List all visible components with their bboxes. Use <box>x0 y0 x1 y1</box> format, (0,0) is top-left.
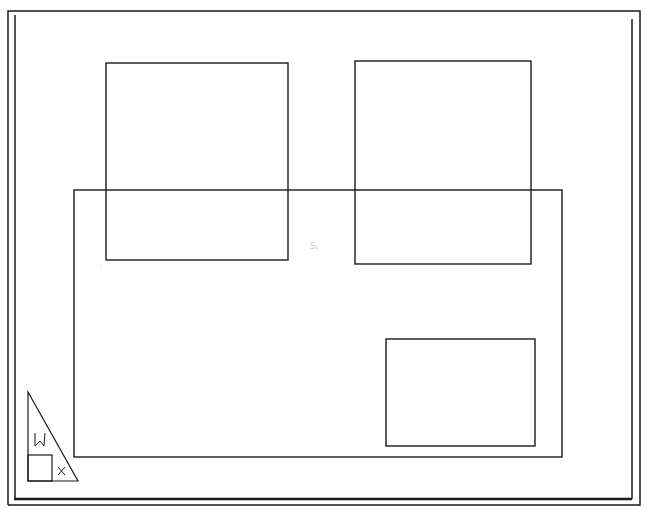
ucs-origin-box <box>28 455 52 481</box>
sheet-border-outer <box>8 11 640 505</box>
sheet-border <box>8 11 640 505</box>
drawing-canvas[interactable] <box>0 0 645 510</box>
viewport-small[interactable] <box>386 339 535 446</box>
annotation-mark: ᵎ <box>100 262 101 271</box>
viewports <box>74 61 562 457</box>
ucs-icon <box>28 392 78 481</box>
viewport-large[interactable] <box>74 190 562 457</box>
viewport-top-left[interactable] <box>106 63 288 260</box>
ucs-w-glyph <box>35 433 45 446</box>
viewport-top-right[interactable] <box>355 61 531 264</box>
annotation-label: S₁ <box>310 242 318 251</box>
